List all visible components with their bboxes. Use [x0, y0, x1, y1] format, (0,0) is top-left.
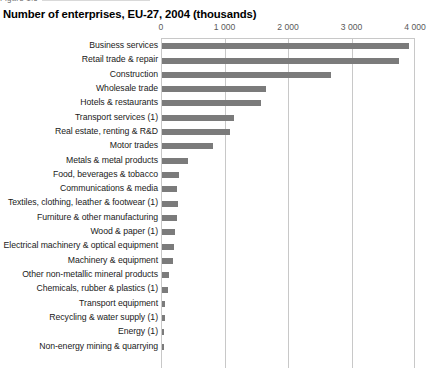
bar — [162, 287, 168, 293]
bar — [162, 158, 188, 164]
chart-rows: Business servicesRetail trade & repairCo… — [0, 39, 427, 354]
chart-row: Energy (1) — [0, 325, 427, 339]
x-tick-label: 1 000 — [214, 22, 236, 32]
figure-caption-rule — [42, 0, 150, 1]
bar — [162, 129, 230, 135]
chart-row: Hotels & restaurants — [0, 96, 427, 110]
bar — [162, 329, 164, 335]
chart-row: Retail trade & repair — [0, 53, 427, 67]
chart-row: Non-energy mining & quarrying — [0, 340, 427, 354]
bar — [162, 258, 173, 264]
category-label: Machinery & equipment — [68, 255, 158, 265]
bar — [162, 58, 399, 64]
bar — [162, 229, 175, 235]
category-label: Wholesale trade — [96, 83, 158, 93]
chart-row: Motor trades — [0, 139, 427, 153]
chart-row: Machinery & equipment — [0, 254, 427, 268]
chart-row: Construction — [0, 68, 427, 82]
bar — [162, 143, 213, 149]
category-label: Business services — [89, 40, 158, 50]
bar — [162, 115, 234, 121]
chart-row: Other non-metallic mineral products — [0, 268, 427, 282]
category-label: Energy (1) — [118, 326, 158, 336]
category-label: Electrical machinery & optical equipment — [4, 240, 158, 250]
category-label: Construction — [110, 69, 158, 79]
bar — [162, 272, 169, 278]
category-label: Motor trades — [110, 140, 158, 150]
category-label: Real estate, renting & R&D — [55, 126, 158, 136]
chart-row: Recycling & water supply (1) — [0, 311, 427, 325]
category-label: Non-energy mining & quarrying — [39, 341, 158, 351]
bar — [162, 86, 266, 92]
chart-row: Wholesale trade — [0, 82, 427, 96]
category-label: Furniture & other manufacturing — [37, 212, 158, 222]
category-label: Metals & metal products — [66, 155, 158, 165]
page-title: Number of enterprises, EU-27, 2004 (thou… — [3, 8, 256, 20]
category-label: Other non-metallic mineral products — [22, 269, 158, 279]
chart-row: Wood & paper (1) — [0, 225, 427, 239]
bar — [162, 172, 179, 178]
category-label: Retail trade & repair — [82, 54, 158, 64]
bar — [162, 100, 261, 106]
category-label: Textiles, clothing, leather & footwear (… — [8, 197, 158, 207]
x-tick-label: 0 — [159, 22, 164, 32]
x-tick-label: 4 000 — [404, 22, 426, 32]
chart-row: Food, beverages & tobacco — [0, 168, 427, 182]
chart-row: Transport services (1) — [0, 111, 427, 125]
category-label: Recycling & water supply (1) — [49, 312, 158, 322]
bar-chart: 01 0002 0003 0004 000 Business servicesR… — [0, 22, 427, 368]
bar — [162, 315, 165, 321]
category-label: Transport services (1) — [75, 112, 158, 122]
bar — [162, 215, 177, 221]
x-tick-label: 3 000 — [341, 22, 363, 32]
chart-row: Business services — [0, 39, 427, 53]
chart-row: Chemicals, rubber & plastics (1) — [0, 282, 427, 296]
chart-row: Real estate, renting & R&D — [0, 125, 427, 139]
figure-caption: Figure 1.6 — [0, 0, 150, 3]
bar — [162, 344, 164, 350]
bar — [162, 72, 331, 78]
chart-row: Communications & media — [0, 182, 427, 196]
chart-row: Transport equipment — [0, 297, 427, 311]
category-label: Food, beverages & tobacco — [53, 169, 158, 179]
bar — [162, 244, 174, 250]
chart-row: Electrical machinery & optical equipment — [0, 239, 427, 253]
chart-row: Metals & metal products — [0, 154, 427, 168]
category-label: Transport equipment — [79, 298, 158, 308]
bar — [162, 43, 409, 49]
category-label: Chemicals, rubber & plastics (1) — [36, 283, 158, 293]
chart-row: Furniture & other manufacturing — [0, 211, 427, 225]
bar — [162, 301, 165, 307]
bar — [162, 201, 178, 207]
x-tick-label: 2 000 — [277, 22, 299, 32]
bar — [162, 186, 177, 192]
category-label: Communications & media — [60, 183, 158, 193]
chart-row: Textiles, clothing, leather & footwear (… — [0, 196, 427, 210]
category-label: Wood & paper (1) — [90, 226, 158, 236]
category-label: Hotels & restaurants — [80, 97, 158, 107]
